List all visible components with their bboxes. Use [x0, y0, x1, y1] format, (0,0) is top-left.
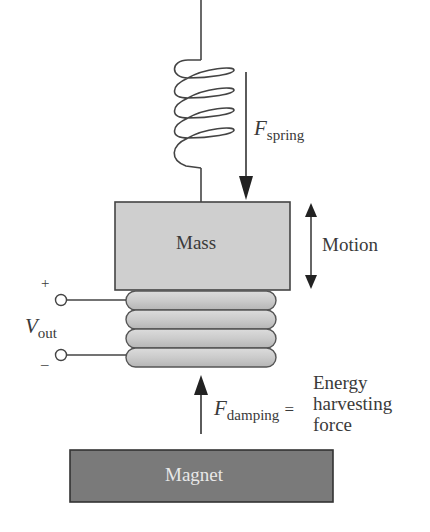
damping-force-symbol: F [214, 396, 227, 420]
energy-harvesting-label: Energy harvesting force [313, 372, 392, 435]
vout-subscript: out [38, 325, 57, 341]
spring-force-symbol: F [254, 116, 267, 140]
spring-force-label: Fspring [254, 116, 304, 141]
magnet-label: Magnet [165, 464, 223, 486]
vout-label: Vout [25, 314, 57, 339]
plus-sign: + [41, 275, 49, 292]
spring-force-subscript: spring [267, 127, 305, 143]
diagram-canvas [0, 0, 430, 532]
equals-sign: = [285, 400, 295, 419]
harvest-line-1: Energy [313, 372, 392, 393]
damping-force-arrow [194, 375, 208, 434]
vout-symbol: V [25, 314, 38, 338]
negative-terminal [56, 350, 67, 361]
coil [126, 291, 276, 367]
minus-sign: – [41, 356, 49, 373]
damping-force-subscript: damping [227, 407, 280, 423]
spring-force-arrow [239, 72, 253, 200]
damping-force-label: Fdamping = [214, 396, 294, 421]
spring [174, 0, 234, 202]
motion-arrow [305, 203, 317, 289]
motion-label: Motion [322, 234, 378, 256]
harvest-line-2: harvesting [313, 393, 392, 414]
output-terminals [56, 295, 127, 361]
harvest-line-3: force [313, 414, 392, 435]
positive-terminal [56, 295, 67, 306]
mass-label: Mass [176, 232, 216, 254]
